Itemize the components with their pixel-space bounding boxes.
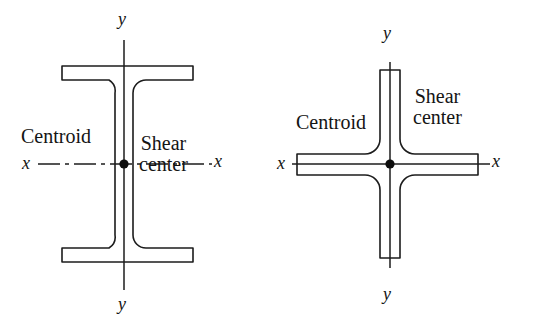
cruciform-y-axis-label-bottom: y bbox=[383, 285, 391, 304]
cruciform-centroid-label: Centroid bbox=[296, 112, 366, 133]
wide-flange-y-axis-label-bottom: y bbox=[118, 295, 126, 314]
figure-container: Centroid Shear center x x y y Centroid S… bbox=[0, 0, 533, 333]
wide-flange-shear-center-label: Shear center bbox=[139, 133, 188, 175]
wide-flange-x-axis-label-right: x bbox=[214, 152, 222, 171]
cruciform-y-axis-label-top: y bbox=[383, 24, 391, 43]
wide-flange-shear-label-line2: center bbox=[139, 154, 188, 175]
cruciform-shear-label-line1: Shear bbox=[413, 86, 462, 107]
wide-flange-centroid-label: Centroid bbox=[21, 126, 91, 147]
cruciform-shear-center-dot bbox=[385, 159, 394, 168]
wide-flange-shear-center-dot bbox=[119, 159, 128, 168]
cruciform-shear-center-label: Shear center bbox=[413, 86, 462, 128]
wide-flange-x-axis-label-left: x bbox=[22, 154, 30, 173]
diagram-canvas bbox=[0, 0, 533, 333]
cruciform-shear-label-line2: center bbox=[413, 107, 462, 128]
wide-flange-y-axis-label-top: y bbox=[118, 10, 126, 29]
cruciform-x-axis-label-left: x bbox=[277, 154, 285, 173]
wide-flange-shear-label-line1: Shear bbox=[139, 133, 188, 154]
cruciform-x-axis-label-right: x bbox=[492, 152, 500, 171]
